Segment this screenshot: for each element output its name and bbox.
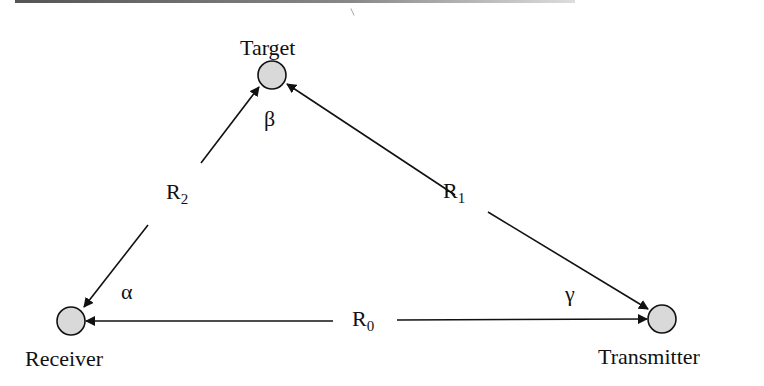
angle-gamma: γ: [565, 283, 575, 305]
edge-label-r1-sub: 1: [458, 190, 466, 206]
edge-label-r2-sub: 2: [181, 191, 189, 207]
angle-beta: β: [264, 108, 275, 130]
edge-r2-lower: [84, 225, 148, 307]
edge-label-r1: R1: [443, 180, 465, 206]
edge-r2-upper: [201, 87, 259, 163]
transmitter-node: [648, 305, 676, 333]
edge-label-r2-base: R: [166, 179, 181, 204]
transmitter-label: Transmitter: [598, 346, 700, 368]
edge-label-r0-sub: 0: [367, 318, 375, 334]
edge-label-r0: R0: [352, 308, 374, 334]
radar-geometry-diagram: [0, 0, 764, 386]
edge-label-r1-base: R: [443, 178, 458, 203]
receiver-node: [57, 307, 85, 335]
angle-alpha: α: [121, 281, 133, 303]
receiver-label: Receiver: [25, 348, 103, 370]
edge-label-r0-base: R: [352, 306, 367, 331]
edge-label-r2: R2: [166, 181, 188, 207]
edge-r1-upper: [287, 84, 455, 195]
target-node: [258, 61, 286, 89]
edge-r0-right: [397, 319, 647, 320]
target-label: Target: [240, 37, 295, 59]
